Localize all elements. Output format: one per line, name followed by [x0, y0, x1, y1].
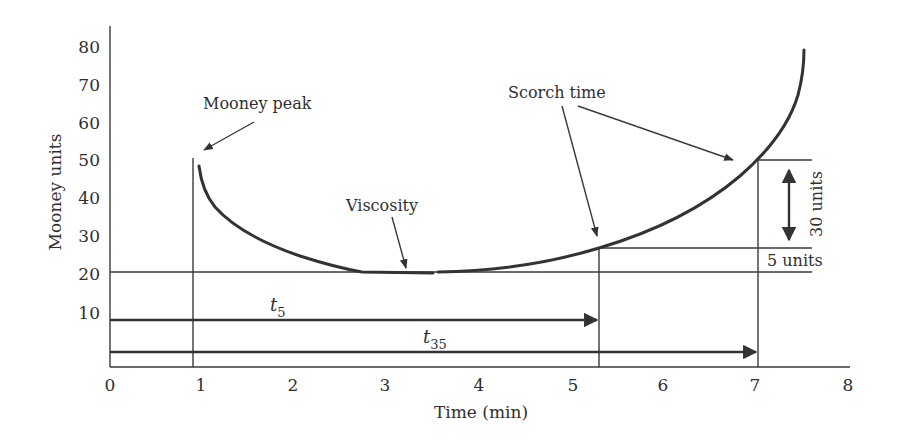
y-tick-label: 50 [78, 150, 100, 170]
scorch-time-label: Scorch time [508, 83, 606, 102]
y-tick-label: 30 [78, 226, 100, 246]
thirty-units-label: 30 units [807, 171, 826, 237]
t5-label: t5 [270, 294, 286, 320]
y-tick-label: 80 [78, 37, 100, 57]
mooney-peak-label: Mooney peak [203, 94, 312, 113]
t5-label-sub: 5 [277, 305, 285, 320]
viscosity-arrow [392, 217, 406, 268]
mooney-scorch-chart: 80 70 60 50 40 30 20 10 0 1 2 3 4 5 6 7 … [0, 0, 900, 446]
x-tick-label: 8 [843, 375, 854, 395]
x-tick-label: 6 [658, 375, 669, 395]
y-axis-title: Mooney units [45, 134, 65, 251]
y-tick-label: 40 [78, 188, 100, 208]
five-units-label: 5 units [767, 251, 823, 270]
x-tick-labels: 0 1 2 3 4 5 6 7 8 [105, 375, 854, 395]
x-tick-label: 4 [474, 375, 485, 395]
scorch-time-arrow-t5 [562, 106, 597, 236]
y-tick-label: 20 [78, 264, 100, 284]
x-tick-label: 0 [105, 375, 116, 395]
scorch-time-arrow-t35 [578, 106, 733, 160]
t35-label-sub: 35 [430, 337, 447, 352]
mooney-peak-arrow [204, 122, 254, 150]
x-tick-label: 7 [750, 375, 761, 395]
y-tick-label: 10 [78, 303, 100, 323]
y-tick-label: 70 [78, 75, 100, 95]
x-tick-label: 5 [568, 375, 579, 395]
viscosity-curve-descending [199, 166, 433, 273]
viscosity-curve-ascending [438, 50, 804, 272]
x-tick-label: 1 [196, 375, 207, 395]
y-tick-label: 60 [78, 113, 100, 133]
x-tick-label: 3 [380, 375, 391, 395]
t35-label: t35 [423, 326, 447, 352]
viscosity-label: Viscosity [345, 196, 418, 215]
x-axis-title: Time (min) [434, 402, 528, 422]
x-tick-label: 2 [288, 375, 299, 395]
y-tick-labels: 80 70 60 50 40 30 20 10 [78, 37, 100, 323]
